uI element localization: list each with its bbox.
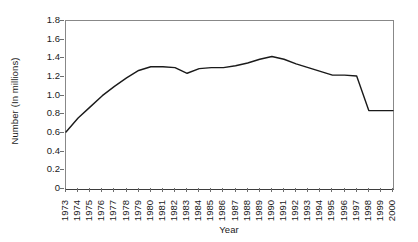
y-axis-tick-label: 0.2 bbox=[30, 163, 60, 175]
x-axis-tick-mark bbox=[380, 188, 381, 192]
x-axis-tick-mark bbox=[344, 188, 345, 192]
x-axis-tick-mark bbox=[186, 188, 187, 192]
y-axis-tick-label: 1.4 bbox=[30, 51, 60, 63]
x-axis-tick-mark bbox=[77, 188, 78, 192]
y-axis-tick-label: 0.6 bbox=[30, 126, 60, 138]
y-axis-tick-mark bbox=[60, 151, 64, 152]
y-axis-tick-labels: 00.20.40.60.81.01.21.41.61.8 bbox=[30, 20, 60, 188]
y-axis-tick-mark bbox=[60, 95, 64, 96]
x-axis-tick-mark bbox=[89, 188, 90, 192]
y-axis-tick-mark bbox=[60, 169, 64, 170]
y-axis-tick-label: 0 bbox=[30, 182, 60, 194]
x-axis-tick-mark bbox=[283, 188, 284, 192]
y-axis-tick-label: 0.4 bbox=[30, 145, 60, 157]
x-axis-tick-mark bbox=[222, 188, 223, 192]
x-axis-tick-mark bbox=[65, 188, 66, 192]
x-axis-tick-mark bbox=[198, 188, 199, 192]
x-axis-tick-mark bbox=[271, 188, 272, 192]
x-axis-tick-mark bbox=[295, 188, 296, 192]
x-axis-tick-mark bbox=[150, 188, 151, 192]
x-axis-title: Year bbox=[65, 224, 393, 235]
x-axis-tick-mark bbox=[247, 188, 248, 192]
x-axis-tick-mark bbox=[126, 188, 127, 192]
y-axis-tick-mark bbox=[60, 20, 64, 21]
y-axis-title: Number (In millions) bbox=[6, 6, 24, 196]
y-axis-tick-mark bbox=[60, 57, 64, 58]
y-axis-tick-label: 1.2 bbox=[30, 70, 60, 82]
x-axis-tick-mark bbox=[101, 188, 102, 192]
x-axis-tick-mark bbox=[356, 188, 357, 192]
y-axis-tick-mark bbox=[60, 39, 64, 40]
data-series-line bbox=[66, 21, 393, 189]
x-axis-tick-mark bbox=[259, 188, 260, 192]
x-axis-tick-mark bbox=[307, 188, 308, 192]
x-axis-tick-mark bbox=[138, 188, 139, 192]
y-axis-tick-label: 0.8 bbox=[30, 107, 60, 119]
y-axis-tick-label: 1.6 bbox=[30, 33, 60, 45]
x-axis-tick-mark bbox=[368, 188, 369, 192]
x-axis-tick-mark bbox=[174, 188, 175, 192]
y-axis-tick-mark bbox=[60, 76, 64, 77]
plot-area bbox=[65, 20, 394, 190]
x-axis-tick-mark bbox=[392, 188, 393, 192]
x-axis-tick-mark bbox=[319, 188, 320, 192]
y-axis-tick-mark bbox=[60, 132, 64, 133]
y-axis-tick-label: 1.8 bbox=[30, 14, 60, 26]
line-chart: Number (In millions) 00.20.40.60.81.01.2… bbox=[0, 0, 418, 242]
x-axis-tick-label: 2000 bbox=[386, 194, 418, 206]
x-axis-tick-mark bbox=[210, 188, 211, 192]
x-axis-tick-mark bbox=[113, 188, 114, 192]
y-axis-tick-label: 1.0 bbox=[30, 89, 60, 101]
x-axis-tick-mark bbox=[162, 188, 163, 192]
y-axis-tick-mark bbox=[60, 113, 64, 114]
x-axis-tick-mark bbox=[235, 188, 236, 192]
y-axis-tick-mark bbox=[60, 188, 64, 189]
x-axis-tick-mark bbox=[331, 188, 332, 192]
